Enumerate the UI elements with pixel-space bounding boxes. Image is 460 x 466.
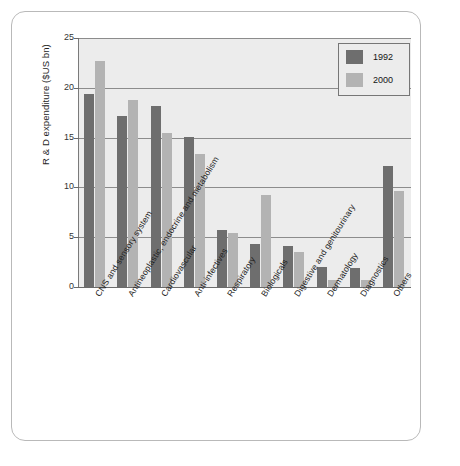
x-label-5: Biologicals [259,257,290,298]
x-label-4: Respiratory [225,255,257,299]
x-label-8: Diagnostics [358,254,391,298]
x-label-9: Others [391,271,413,299]
x-axis-category-labels: CNS and sensory systemAntineoplastic, en… [0,0,460,466]
x-label-3: Anti-infectives [192,246,230,298]
x-label-7: Dermatology [325,251,360,299]
x-label-6: Digestive and genitourinary [292,202,357,298]
chart-page: R & D expenditure ($US bn) 0510152025 19… [0,0,460,466]
x-label-0: CNS and sensory system [93,209,154,298]
